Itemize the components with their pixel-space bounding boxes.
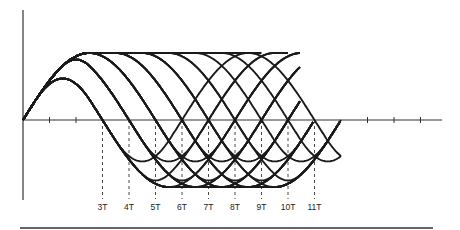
waveform-6T-3T [23, 53, 300, 161]
label-9T: 9T [257, 202, 267, 212]
label-10T: 10T [281, 202, 296, 212]
label-4T: 4T [124, 202, 134, 212]
eye-pattern-diagram: 3T 4T 5T 6T 7T 8T 9T 10T 11T [0, 0, 460, 230]
label-6T: 6T [177, 202, 187, 212]
waveform-3T-7T [23, 79, 300, 187]
label-8T: 8T [230, 202, 240, 212]
label-7T: 7T [204, 202, 214, 212]
waveform-3T-9T [23, 79, 340, 187]
waveform-7T-3T [23, 53, 300, 161]
waveform-9T-3T [23, 53, 340, 161]
label-3T: 3T [98, 202, 108, 212]
crossing-labels: 3T 4T 5T 6T 7T 8T 9T 10T 11T [98, 202, 322, 212]
label-5T: 5T [151, 202, 161, 212]
label-11T: 11T [307, 202, 321, 212]
waveform-5T-3T [23, 53, 300, 161]
